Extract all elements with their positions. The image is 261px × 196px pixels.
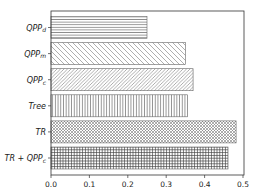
bar-qpp-d — [51, 17, 147, 39]
x-tick-label: 0.0 — [45, 180, 57, 189]
bar-tree — [51, 95, 187, 117]
y-axis-labels: QPPdQPPmQPPcTreeTRTR + QPPc — [5, 24, 52, 164]
bar-tr-qpp-c — [51, 147, 228, 169]
bars-group — [51, 17, 236, 170]
horizontal-bar-chart: QPPdQPPmQPPcTreeTRTR + QPPc 0.00.10.20.3… — [0, 0, 261, 196]
bar-qpp-m — [51, 43, 185, 65]
x-tick-label: 0.5 — [237, 180, 249, 189]
y-label: QPPm — [24, 50, 46, 60]
x-axis-ticks: 0.00.10.20.30.40.5 — [45, 175, 249, 189]
y-label: Tree — [29, 102, 46, 111]
bar-qpp-c — [51, 69, 193, 91]
bar-tr — [51, 121, 236, 143]
x-tick-label: 0.2 — [122, 180, 134, 189]
x-tick-label: 0.3 — [160, 180, 172, 189]
y-label: TR + QPPc — [5, 154, 47, 164]
x-tick-label: 0.4 — [199, 180, 211, 189]
y-label: QPPc — [27, 76, 47, 86]
y-label: TR — [36, 128, 46, 137]
y-label: QPPd — [26, 24, 46, 34]
x-tick-label: 0.1 — [83, 180, 95, 189]
